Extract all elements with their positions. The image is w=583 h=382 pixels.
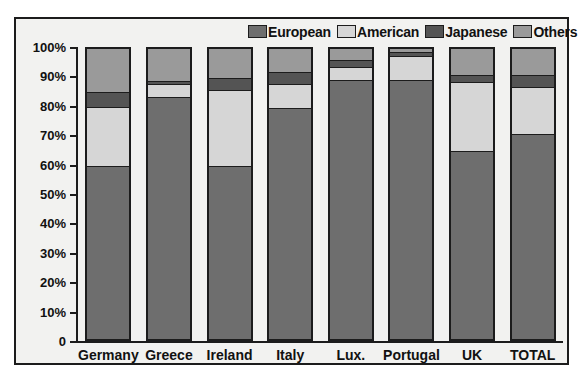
y-axis-tick bbox=[70, 135, 78, 137]
y-axis-tick bbox=[70, 282, 78, 284]
y-axis-tick bbox=[70, 341, 78, 343]
y-axis-tick bbox=[70, 76, 78, 78]
bar-column-germany[interactable] bbox=[85, 47, 131, 341]
y-axis-label: 10% bbox=[16, 305, 66, 320]
bar-segment-american bbox=[209, 90, 251, 166]
bar-segment-others bbox=[148, 49, 190, 81]
bar-segment-japanese bbox=[451, 75, 493, 82]
chart-frame: EuropeanAmericanJapaneseOthers 100%90%80… bbox=[14, 17, 569, 365]
x-axis-label: Italy bbox=[260, 347, 321, 363]
y-axis-label: 100% bbox=[16, 40, 66, 55]
bar-segment-american bbox=[512, 87, 554, 134]
y-axis-label: 70% bbox=[16, 128, 66, 143]
x-axis-label: TOTAL bbox=[502, 347, 563, 363]
bar-segment-american bbox=[330, 67, 372, 79]
bar-column-lux[interactable] bbox=[328, 47, 374, 341]
bar-column-portugal[interactable] bbox=[388, 47, 434, 341]
y-axis-label: 50% bbox=[16, 187, 66, 202]
bar-segment-european bbox=[148, 97, 190, 339]
x-axis-label: Ireland bbox=[199, 347, 260, 363]
y-axis-tick bbox=[70, 194, 78, 196]
bar-segment-american bbox=[269, 84, 311, 108]
bar-column-greece[interactable] bbox=[146, 47, 192, 341]
y-axis-tick bbox=[70, 253, 78, 255]
stacked-bar[interactable] bbox=[510, 47, 556, 341]
stacked-bar[interactable] bbox=[328, 47, 374, 341]
bar-segment-others bbox=[209, 49, 251, 78]
stacked-bar[interactable] bbox=[207, 47, 253, 341]
bar-segment-american bbox=[148, 84, 190, 96]
bar-segment-european bbox=[209, 166, 251, 339]
bar-column-total[interactable] bbox=[510, 47, 556, 341]
bar-segment-japanese bbox=[330, 60, 372, 67]
bar-group bbox=[78, 47, 563, 341]
bar-segment-european bbox=[451, 151, 493, 339]
stacked-bar[interactable] bbox=[146, 47, 192, 341]
bar-segment-others bbox=[87, 49, 129, 92]
y-axis-tick bbox=[70, 106, 78, 108]
bar-segment-american bbox=[87, 107, 129, 165]
bar-segment-others bbox=[451, 49, 493, 75]
bar-column-ireland[interactable] bbox=[207, 47, 253, 341]
stacked-bar[interactable] bbox=[388, 47, 434, 341]
bar-column-italy[interactable] bbox=[267, 47, 313, 341]
y-axis-label: 90% bbox=[16, 69, 66, 84]
x-axis-line bbox=[76, 341, 563, 343]
bar-segment-european bbox=[87, 166, 129, 339]
bar-segment-american bbox=[390, 56, 432, 80]
y-axis-tick bbox=[70, 165, 78, 167]
stacked-bar[interactable] bbox=[267, 47, 313, 341]
y-axis-tick bbox=[70, 312, 78, 314]
bar-segment-others bbox=[269, 49, 311, 72]
bar-segment-others bbox=[512, 49, 554, 75]
y-axis-tick bbox=[70, 47, 78, 49]
bar-segment-others bbox=[330, 49, 372, 60]
bar-segment-japanese bbox=[209, 78, 251, 90]
bar-segment-european bbox=[269, 108, 311, 339]
bar-segment-japanese bbox=[87, 92, 129, 107]
x-axis-label: Lux. bbox=[321, 347, 382, 363]
y-axis-label: 80% bbox=[16, 99, 66, 114]
plot-area: 100%90%80%70%60%50%40%30%20%10%0 Germany… bbox=[16, 19, 567, 363]
y-axis-label: 20% bbox=[16, 275, 66, 290]
bar-segment-japanese bbox=[269, 72, 311, 84]
x-axis-label: Portugal bbox=[381, 347, 442, 363]
bar-segment-european bbox=[330, 80, 372, 339]
bar-column-uk[interactable] bbox=[449, 47, 495, 341]
x-axis-label: UK bbox=[442, 347, 503, 363]
y-axis-label: 0 bbox=[16, 334, 66, 349]
bar-segment-european bbox=[512, 134, 554, 339]
y-axis-label: 30% bbox=[16, 246, 66, 261]
x-axis-label: Germany bbox=[78, 347, 139, 363]
x-axis-label: Greece bbox=[139, 347, 200, 363]
y-axis-label: 60% bbox=[16, 158, 66, 173]
bar-segment-american bbox=[451, 82, 493, 152]
bar-segment-european bbox=[390, 80, 432, 339]
stacked-bar[interactable] bbox=[449, 47, 495, 341]
stacked-bar[interactable] bbox=[85, 47, 131, 341]
y-axis-label: 40% bbox=[16, 216, 66, 231]
y-axis-tick bbox=[70, 223, 78, 225]
bar-segment-japanese bbox=[512, 75, 554, 87]
